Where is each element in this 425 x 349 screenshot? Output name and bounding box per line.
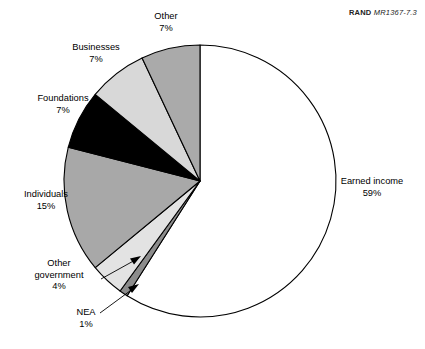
slice-label-other-government-name-line2: government [20,270,98,282]
slice-label-businesses-name: Businesses [72,42,120,52]
slice-label-individuals-name: Individuals [24,189,68,199]
slice-label-nea-pct: 1% [62,319,110,331]
slice-label-businesses-pct: 7% [58,54,134,66]
pie-slice-group [64,45,336,317]
slice-label-other-government-pct: 4% [20,281,98,293]
slice-label-foundations: Foundations 7% [22,93,104,116]
slice-label-other-pct: 7% [137,23,195,35]
slice-label-individuals-pct: 15% [6,201,86,213]
pie-chart-figure: RAND MR1367-7.3 Other 7% Businesses 7% F… [0,0,425,349]
slice-label-earned-income-name: Earned income [341,176,404,186]
slice-label-individuals: Individuals 15% [6,189,86,212]
slice-label-other-government-name-line1: Other [47,258,70,268]
slice-label-nea: NEA 1% [62,307,110,330]
slice-label-other-name: Other [154,11,177,21]
slice-label-nea-name: NEA [76,307,95,317]
slice-label-foundations-pct: 7% [22,105,104,117]
slice-label-foundations-name: Foundations [37,93,88,103]
slice-label-other: Other 7% [137,11,195,34]
slice-label-businesses: Businesses 7% [58,42,134,65]
slice-label-earned-income: Earned income 59% [330,176,414,199]
slice-label-earned-income-pct: 59% [330,188,414,200]
slice-label-other-government: Other government 4% [20,258,98,293]
